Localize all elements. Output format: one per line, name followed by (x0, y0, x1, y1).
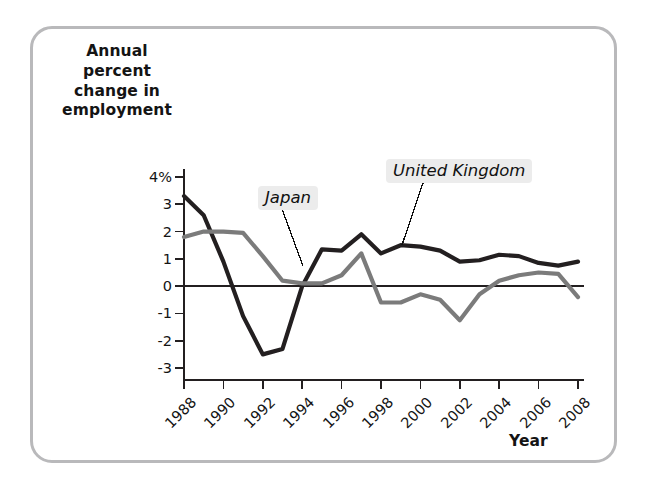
leader-line-united-kingdom (402, 183, 423, 245)
leader-line-japan (282, 209, 303, 266)
plot-area (0, 0, 647, 497)
series-annotation-united-kingdom: United Kingdom (386, 159, 532, 183)
axis-lines (175, 169, 584, 389)
chart-figure: Annual percent change in employment Year… (0, 0, 647, 497)
series-annotation-japan: Japan (258, 186, 318, 210)
series-line-japan (184, 232, 578, 321)
data-series (184, 196, 578, 354)
